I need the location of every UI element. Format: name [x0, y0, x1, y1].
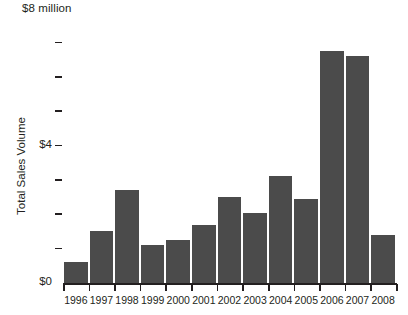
bar-cell — [345, 8, 371, 283]
x-label-2004: 2004 — [268, 294, 294, 312]
bar-cell — [370, 8, 396, 283]
bar-1998 — [114, 190, 140, 283]
x-label-2005: 2005 — [293, 294, 319, 312]
bar-1999 — [140, 245, 166, 283]
x-label-2002: 2002 — [217, 294, 243, 312]
bar-series — [63, 8, 396, 283]
x-tick-12 — [370, 284, 372, 291]
x-label-2007: 2007 — [345, 294, 371, 312]
bar-2000 — [165, 240, 191, 283]
bar-cell — [114, 8, 140, 283]
bar-cell — [89, 8, 115, 283]
y-tick-label-0: $0 — [12, 275, 52, 287]
x-tick-13 — [396, 284, 398, 291]
x-tick-3 — [140, 284, 142, 291]
x-axis-line — [63, 283, 397, 285]
bar-cell — [268, 8, 294, 283]
y-tick-4 — [55, 145, 62, 147]
x-label-2008: 2008 — [370, 294, 396, 312]
x-tick-1 — [89, 284, 91, 291]
plot-area — [63, 8, 396, 283]
bar-cell — [293, 8, 319, 283]
bar-1996 — [63, 262, 89, 283]
bar-cell — [242, 8, 268, 283]
bar-2002 — [217, 197, 243, 283]
bar-1997 — [89, 231, 115, 283]
bar-2007 — [345, 56, 371, 283]
x-label-2006: 2006 — [319, 294, 345, 312]
y-axis-title: Total Sales Volume — [15, 96, 27, 236]
y-tick-1 — [55, 248, 62, 250]
bar-cell — [165, 8, 191, 283]
bar-2003 — [242, 213, 268, 283]
x-label-1998: 1998 — [114, 294, 140, 312]
x-label-2001: 2001 — [191, 294, 217, 312]
y-tick-5 — [55, 110, 62, 112]
x-tick-5 — [191, 284, 193, 291]
bar-cell — [217, 8, 243, 283]
x-tick-8 — [268, 284, 270, 291]
x-label-1996: 1996 — [63, 294, 89, 312]
x-tick-4 — [165, 284, 167, 291]
bar-cell — [319, 8, 345, 283]
bar-2005 — [293, 199, 319, 283]
bar-cell — [63, 8, 89, 283]
bar-2008 — [370, 235, 396, 283]
bar-cell — [191, 8, 217, 283]
x-tick-0 — [63, 284, 65, 291]
bar-2001 — [191, 225, 217, 283]
x-axis-tick-labels: 1996199719981999200020012002200320042005… — [63, 294, 396, 312]
bar-2004 — [268, 176, 294, 283]
y-tick-2 — [55, 213, 62, 215]
y-tick-3 — [55, 179, 62, 181]
y-tick-7 — [55, 42, 62, 44]
x-label-1999: 1999 — [140, 294, 166, 312]
bar-2006 — [319, 51, 345, 283]
x-tick-2 — [114, 284, 116, 291]
x-label-2000: 2000 — [165, 294, 191, 312]
bar-chart: $8 million Total Sales Volume $0$4 19961… — [0, 0, 408, 315]
x-tick-7 — [242, 284, 244, 291]
x-label-2003: 2003 — [242, 294, 268, 312]
bar-cell — [140, 8, 166, 283]
x-tick-6 — [217, 284, 219, 291]
x-tick-9 — [294, 284, 296, 291]
y-tick-label-4: $4 — [12, 138, 52, 150]
y-tick-6 — [55, 76, 62, 78]
x-tick-11 — [345, 284, 347, 291]
x-label-1997: 1997 — [89, 294, 115, 312]
x-tick-10 — [319, 284, 321, 291]
